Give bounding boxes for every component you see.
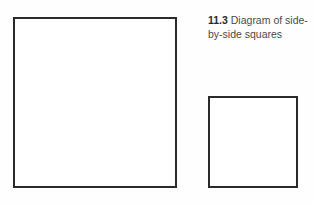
small-square	[208, 96, 298, 188]
large-square	[13, 17, 177, 188]
figure-number: 11.3	[208, 14, 228, 26]
figure-caption: 11.3 Diagram of side-by-side squares	[208, 13, 308, 41]
